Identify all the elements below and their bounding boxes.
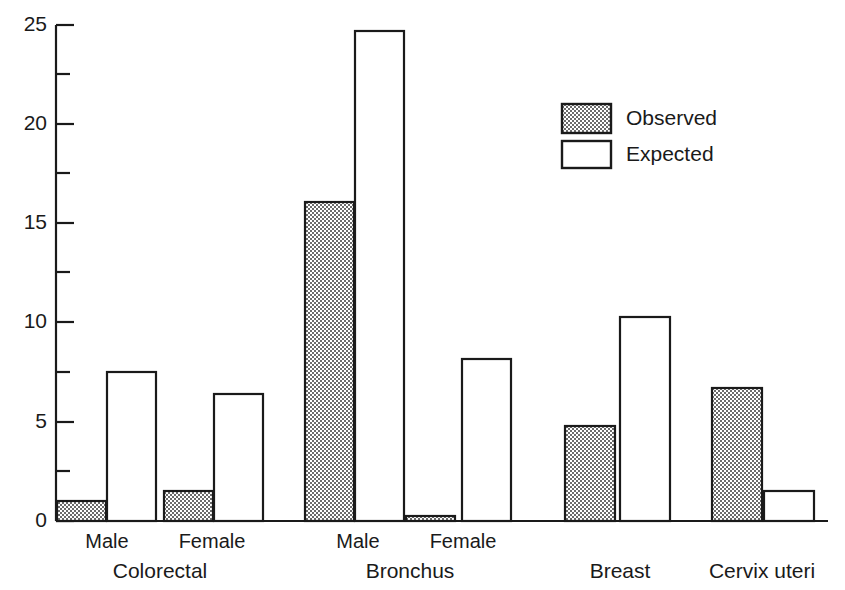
y-tick-label-20: 20	[24, 111, 47, 134]
bar-expected-colorectal-male	[107, 372, 156, 521]
x-axis-labels: Male Female Male Female Colorectal Bronc…	[85, 530, 815, 582]
bar-observed-bronchus-male	[305, 202, 354, 521]
bar-expected-colorectal-female	[214, 394, 263, 521]
legend-label-expected: Expected	[626, 142, 714, 165]
bar-expected-bronchus-male	[355, 31, 404, 521]
x-group-label-colorectal: Colorectal	[113, 559, 208, 582]
x-sublabel-colorectal-female: Female	[179, 530, 246, 552]
bar-expected-bronchus-female	[462, 359, 511, 521]
y-tick-label-15: 15	[24, 210, 47, 233]
bar-observed-bronchus-female	[406, 516, 455, 521]
bar-chart: 25 20 15 10 5 0	[0, 0, 845, 590]
legend-label-observed: Observed	[626, 106, 717, 129]
bars-layer	[57, 31, 814, 521]
bar-expected-breast	[620, 317, 670, 521]
bar-observed-cervix-uteri	[712, 388, 762, 521]
y-tick-label-10: 10	[24, 309, 47, 332]
chart-legend: Observed Expected	[562, 104, 717, 168]
legend-swatch-expected	[562, 141, 611, 168]
x-sublabel-bronchus-male: Male	[336, 530, 379, 552]
bar-expected-cervix-uteri	[764, 491, 814, 521]
x-group-label-bronchus: Bronchus	[366, 559, 455, 582]
x-group-label-cervix-uteri: Cervix uteri	[709, 559, 815, 582]
bar-observed-colorectal-male	[57, 501, 106, 521]
y-tick-label-25: 25	[24, 12, 47, 35]
y-tick-label-0: 0	[35, 508, 47, 531]
y-tick-label-5: 5	[35, 409, 47, 432]
chart-canvas: 25 20 15 10 5 0	[0, 0, 845, 590]
bar-observed-colorectal-female	[164, 491, 213, 521]
legend-swatch-observed	[562, 104, 611, 133]
x-sublabel-bronchus-female: Female	[430, 530, 497, 552]
y-axis: 25 20 15 10 5 0	[24, 12, 74, 531]
bar-observed-breast	[565, 426, 615, 521]
x-sublabel-colorectal-male: Male	[85, 530, 128, 552]
x-group-label-breast: Breast	[590, 559, 651, 582]
